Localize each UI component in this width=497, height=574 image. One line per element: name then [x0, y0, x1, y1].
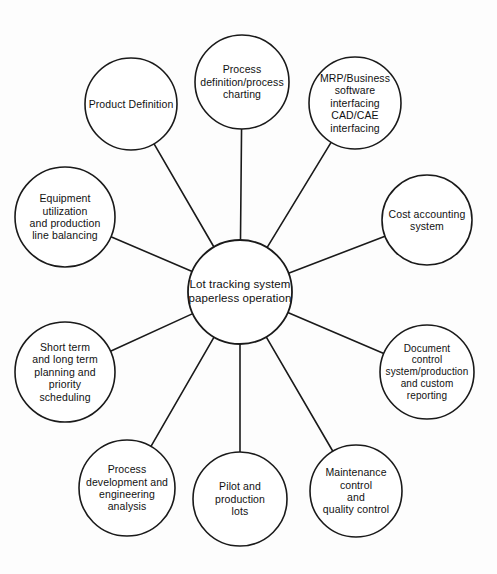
node-circle-document-control-system[interactable]: [380, 325, 474, 419]
node-circle-equipment-utilization[interactable]: [15, 167, 115, 267]
connector-short-long-term-planning: [110, 314, 192, 352]
node-circle-mrp-business-software[interactable]: [309, 57, 401, 149]
node-circle-pilot-production-lots[interactable]: [193, 452, 287, 546]
hub-circle-hub[interactable]: [188, 240, 292, 344]
connector-mrp-business-software: [267, 142, 331, 247]
connector-cost-accounting-system: [289, 236, 385, 273]
node-circle-cost-accounting-system[interactable]: [382, 175, 472, 265]
connector-process-definition: [241, 129, 242, 240]
node-circle-maintenance-quality-control[interactable]: [310, 445, 402, 537]
node-circle-short-long-term-planning[interactable]: [15, 322, 115, 422]
connector-process-development: [151, 337, 214, 446]
connector-document-control-system: [288, 312, 384, 353]
lot-tracking-system-diagram: Lot tracking system paperless operationP…: [0, 0, 497, 574]
node-circle-process-development[interactable]: [79, 440, 175, 536]
connector-product-definition: [154, 144, 214, 247]
node-circle-product-definition[interactable]: [85, 58, 177, 150]
diagram-canvas: [0, 0, 497, 574]
circle-layer: [15, 35, 474, 546]
connector-equipment-utilization: [111, 237, 192, 272]
connector-maintenance-quality-control: [266, 337, 333, 451]
node-circle-process-definition[interactable]: [195, 35, 289, 129]
